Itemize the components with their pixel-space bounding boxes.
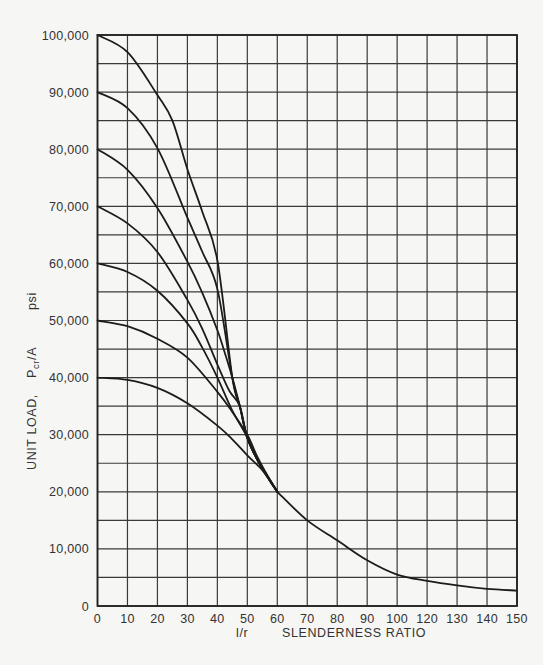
y-tick-label: 60,000 xyxy=(49,257,89,271)
x-tick-label: 70 xyxy=(300,612,315,626)
x-tick-label: 10 xyxy=(120,612,135,626)
x-tick-label: 140 xyxy=(476,612,498,626)
x-tick-label: 120 xyxy=(416,612,438,626)
y-axis-title-unit: psi xyxy=(25,292,39,310)
x-tick-label: 0 xyxy=(94,612,101,626)
y-tick-label: 20,000 xyxy=(49,485,89,499)
x-tick-label: 130 xyxy=(446,612,468,626)
y-tick-label: 70,000 xyxy=(49,200,89,214)
y-axis-title-prefix: UNIT LOAD, xyxy=(25,394,39,470)
x-tick-label: 60 xyxy=(270,612,285,626)
x-axis-symbol: l/r xyxy=(236,626,248,640)
x-tick-label: 80 xyxy=(330,612,345,626)
y-tick-label: 10,000 xyxy=(49,542,89,556)
y-tick-label: 80,000 xyxy=(49,143,89,157)
x-tick-label: 50 xyxy=(240,612,255,626)
x-tick-label: 150 xyxy=(506,612,528,626)
x-axis-tick-labels: 0102030405060708090100120130140150 xyxy=(94,612,528,626)
y-tick-label: 30,000 xyxy=(49,428,89,442)
y-tick-label: 50,000 xyxy=(49,314,89,328)
chart: 0102030405060708090100120130140150 010,0… xyxy=(0,0,543,665)
x-tick-label: 90 xyxy=(360,612,375,626)
x-tick-label: 40 xyxy=(210,612,225,626)
y-axis-title: UNIT LOAD, Pcr/A psi xyxy=(25,292,41,470)
y-axis-tick-labels: 010,00020,00030,00040,00050,00060,00070,… xyxy=(42,29,89,614)
x-tick-label: 100 xyxy=(386,612,408,626)
y-tick-label: 0 xyxy=(82,600,89,614)
x-axis-title: SLENDERNESS RATIO xyxy=(282,626,426,640)
x-tick-label: 30 xyxy=(180,612,195,626)
y-tick-label: 40,000 xyxy=(49,371,89,385)
y-tick-label: 90,000 xyxy=(49,86,89,100)
y-tick-label: 100,000 xyxy=(42,29,89,43)
y-axis-title-symbol: Pcr/A xyxy=(25,347,41,378)
x-tick-label: 20 xyxy=(150,612,165,626)
